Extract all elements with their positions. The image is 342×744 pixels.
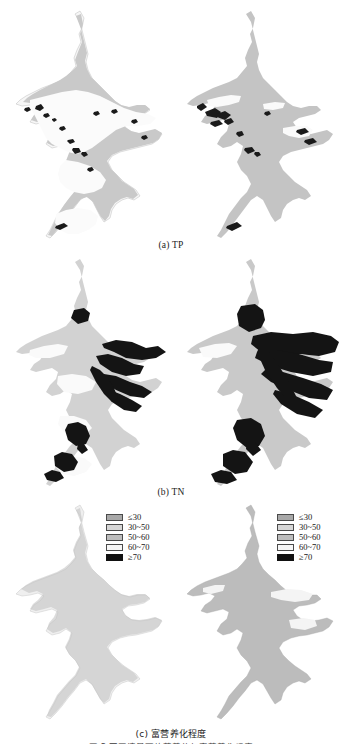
tn-map-left xyxy=(0,248,171,494)
map-canvas xyxy=(171,0,342,246)
map-canvas xyxy=(171,248,342,494)
reservoir-map-svg xyxy=(0,248,171,494)
legend-label-ge70: ≥70 xyxy=(128,553,141,562)
legend-item: ≤30 xyxy=(106,513,150,522)
legend-item: 30~50 xyxy=(277,523,321,532)
legend-item: 50~60 xyxy=(106,533,150,542)
figure-container: (a) TP xyxy=(0,0,342,744)
panel-row-b xyxy=(0,248,342,494)
tn-map-right xyxy=(171,248,342,494)
map-canvas xyxy=(0,0,171,246)
legend-swatch-60-70 xyxy=(277,544,294,551)
legend-swatch-ge70 xyxy=(106,554,123,561)
legend-label-le30: ≤30 xyxy=(128,513,141,522)
legend-item: 30~50 xyxy=(106,523,150,532)
legend-label-50-60: 50~60 xyxy=(299,533,321,542)
legend-item: ≥70 xyxy=(106,553,150,562)
legend-label-30-50: 30~50 xyxy=(299,523,321,532)
legend-swatch-50-60 xyxy=(106,534,123,541)
legend-label-30-50: 30~50 xyxy=(128,523,150,532)
legend-right: ≤30 30~50 50~60 60~70 ≥70 xyxy=(277,513,321,562)
legend-label-60-70: 60~70 xyxy=(299,543,321,552)
legend-swatch-le30 xyxy=(277,514,294,521)
legend-item: 60~70 xyxy=(106,543,150,552)
caption-panel-c: (c) 富营养化程度 xyxy=(0,727,342,740)
reservoir-map-svg xyxy=(0,0,171,246)
legend-item: ≥70 xyxy=(277,553,321,562)
legend-swatch-60-70 xyxy=(106,544,123,551)
legend-item: ≤30 xyxy=(277,513,321,522)
tp-map-right xyxy=(171,0,342,246)
tp-map-left xyxy=(0,0,171,246)
legend-swatch-50-60 xyxy=(277,534,294,541)
legend-label-le30: ≤30 xyxy=(299,513,312,522)
panel-row-a xyxy=(0,0,342,246)
legend-left: ≤30 30~50 50~60 60~70 ≥70 xyxy=(106,513,150,562)
legend-label-ge70: ≥70 xyxy=(299,553,312,562)
legend-swatch-ge70 xyxy=(277,554,294,561)
figure-caption-cutoff: 图 3 不同情景下的营养盐与富营养化程度 xyxy=(0,740,342,744)
map-canvas xyxy=(0,248,171,494)
legend-item: 50~60 xyxy=(277,533,321,542)
reservoir-map-svg xyxy=(171,0,342,246)
legend-swatch-30-50 xyxy=(106,524,123,531)
legend-label-50-60: 50~60 xyxy=(128,533,150,542)
legend-label-60-70: 60~70 xyxy=(128,543,150,552)
legend-swatch-le30 xyxy=(106,514,123,521)
legend-item: 60~70 xyxy=(277,543,321,552)
legend-swatch-30-50 xyxy=(277,524,294,531)
map-class-le30 xyxy=(187,11,333,238)
reservoir-map-svg xyxy=(171,248,342,494)
